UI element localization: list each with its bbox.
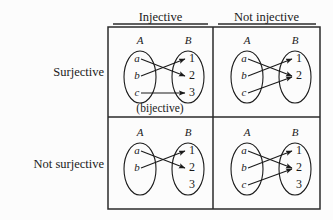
cell-3-codomain-element-3: 3 xyxy=(189,177,195,191)
cell-2-codomain-ellipse xyxy=(279,51,311,103)
cell-2-codomain-label: B xyxy=(292,34,299,46)
cell-1-codomain-element-2: 2 xyxy=(189,68,195,82)
cell-1-domain-element-a: a xyxy=(134,52,140,64)
row-header-surjective: Surjective xyxy=(4,65,104,80)
cell-1-domain-label: A xyxy=(136,34,144,46)
cell-1-codomain-ellipse xyxy=(172,51,204,103)
grid-border xyxy=(108,24,320,209)
cell-3-domain-label: A xyxy=(136,126,144,138)
cell-3-domain-element-b: b xyxy=(134,161,140,173)
diagram-canvas: A B a b c 1 2 3 (bijective) A B a b c 1 xyxy=(0,0,333,220)
cell-4-codomain-element-1: 1 xyxy=(296,143,302,157)
cell-1-domain-ellipse xyxy=(124,51,156,103)
cell-not-surjective-injective: A B a b 1 2 3 xyxy=(124,126,204,195)
cell-2-domain-element-c: c xyxy=(242,86,247,98)
cell-4-arrow-c-to-2 xyxy=(248,169,292,185)
cell-4-domain-element-b: b xyxy=(241,161,247,173)
cell-2-domain-ellipse xyxy=(231,51,263,103)
cell-2-domain-element-b: b xyxy=(241,69,247,81)
cell-3-codomain-element-2: 2 xyxy=(189,160,195,174)
cell-not-surjective-not-injective: A B a b c 1 2 3 xyxy=(231,126,311,195)
cell-3-codomain-label: B xyxy=(185,126,192,138)
cell-1-domain-element-b: b xyxy=(134,69,140,81)
cell-4-domain-element-c: c xyxy=(242,178,247,190)
row-header-not-surjective: Not surjective xyxy=(4,157,104,172)
cell-1-codomain-element-1: 1 xyxy=(189,51,195,65)
column-header-injective: Injective xyxy=(108,10,213,25)
cell-4-codomain-ellipse xyxy=(279,143,311,195)
cell-4-codomain-element-2: 2 xyxy=(296,160,302,174)
function-classification-figure: Injective Not injective Surjective Not s… xyxy=(0,0,333,220)
cell-4-codomain-element-3: 3 xyxy=(296,177,302,191)
column-header-not-injective: Not injective xyxy=(213,10,320,25)
cell-3-codomain-ellipse xyxy=(172,143,204,195)
cell-2-codomain-element-2: 2 xyxy=(296,68,302,82)
cell-3-domain-ellipse xyxy=(124,143,156,195)
cell-2-codomain-element-1: 1 xyxy=(296,51,302,65)
cell-surjective-not-injective: A B a b c 1 2 xyxy=(231,34,311,103)
cell-1-domain-element-c: c xyxy=(135,86,140,98)
cell-3-codomain-element-1: 1 xyxy=(189,143,195,157)
cell-1-codomain-label: B xyxy=(185,34,192,46)
cell-4-domain-ellipse xyxy=(231,143,263,195)
cell-2-domain-element-a: a xyxy=(241,52,247,64)
cell-2-arrow-c-to-2 xyxy=(248,77,292,93)
cell-3-domain-element-a: a xyxy=(134,144,140,156)
cell-2-domain-label: A xyxy=(243,34,251,46)
cell-surjective-injective: A B a b c 1 2 3 (bijective) xyxy=(124,34,204,115)
cell-4-domain-element-a: a xyxy=(241,144,247,156)
cell-1-codomain-element-3: 3 xyxy=(189,85,195,99)
cell-4-domain-label: A xyxy=(243,126,251,138)
cell-4-codomain-label: B xyxy=(292,126,299,138)
cell-1-caption: (bijective) xyxy=(136,102,183,115)
